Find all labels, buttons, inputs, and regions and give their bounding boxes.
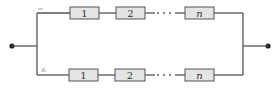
- bottom-block-2-label: 2: [127, 70, 133, 81]
- top-block-2-label: 2: [127, 8, 133, 19]
- bottom-block-n-label: n: [196, 70, 202, 81]
- bottom-branch-mark: [41, 69, 46, 71]
- bottom-branch: 1 2 n: [37, 69, 243, 81]
- top-block-n-label: n: [196, 8, 202, 19]
- parallel-series-diagram: 1 2 n 1 2 n: [0, 0, 280, 105]
- top-branch: 1 2 n: [37, 7, 243, 19]
- bottom-block-1-label: 1: [80, 70, 86, 81]
- top-block-1-label: 1: [81, 8, 87, 19]
